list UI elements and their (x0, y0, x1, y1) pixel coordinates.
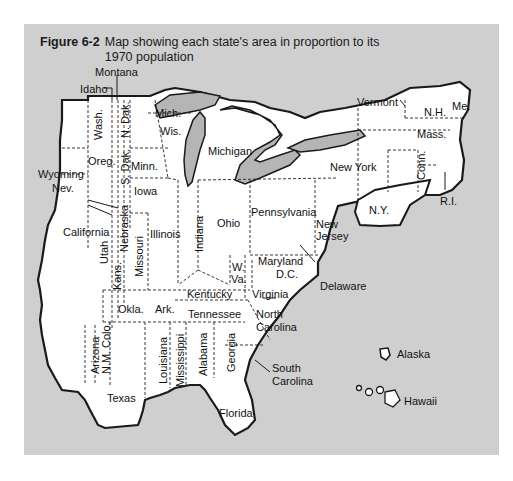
label-minnesota: Minn. (131, 160, 158, 172)
label-michigan-up: Mich. (155, 107, 181, 119)
label-new-york: New York (330, 161, 376, 173)
label-ohio: Ohio (217, 217, 240, 229)
label-south-carolina-2: Carolina (272, 375, 313, 387)
label-rhode-island: R.I. (440, 195, 457, 207)
label-north-carolina-2: Carolina (256, 321, 297, 333)
label-vermont: Vermont (357, 96, 398, 108)
alaska-shape (380, 348, 390, 360)
label-mississippi: Mississippi (174, 334, 186, 387)
label-nebraska: Nebraska (118, 205, 130, 252)
label-idaho: Idaho (80, 83, 108, 95)
label-tennessee: Tennessee (188, 308, 241, 320)
label-new-hampshire: N.H. (424, 106, 446, 118)
cartogram-map (0, 0, 513, 481)
label-montana: Montana (95, 66, 138, 78)
label-utah: Utah (98, 241, 110, 264)
label-new-jersey-1: New (316, 218, 338, 230)
label-iowa: Iowa (134, 185, 157, 197)
label-georgia: Georgia (225, 333, 237, 372)
label-ny-city: N.Y. (369, 204, 389, 216)
label-north-carolina-1: North (256, 308, 283, 320)
label-pennsylvania: Pennsylvania (251, 206, 316, 218)
label-indiana: Indiana (193, 216, 205, 252)
label-oregon: Oreg. (88, 155, 116, 167)
label-west-virginia-2: Va. (231, 273, 247, 285)
label-california: California (63, 226, 109, 238)
label-nevada: Nev. (52, 182, 74, 194)
label-colorado: Colo. (100, 322, 112, 348)
label-florida: Florida (219, 407, 253, 419)
label-texas: Texas (107, 392, 136, 404)
label-massachusetts: Mass. (417, 128, 446, 140)
label-kansas: Kans. (111, 262, 123, 290)
label-oklahoma: Okla. (118, 303, 144, 315)
label-arkansas: Ark. (155, 303, 175, 315)
label-wyoming: Wyoming (38, 168, 84, 180)
label-maryland: Maryland (258, 255, 303, 267)
label-new-mexico: N.M. (100, 351, 112, 374)
label-missouri: Missouri (133, 236, 145, 277)
label-maine: Me. (452, 100, 470, 112)
label-illinois: Illinois (150, 228, 181, 240)
label-connecticut: Conn. (415, 151, 427, 180)
label-north-dakota: N. Dak. (119, 101, 131, 138)
label-alaska: Alaska (397, 348, 430, 360)
label-washington: Wash. (92, 109, 104, 140)
label-south-carolina-1: South (272, 362, 301, 374)
hawaii-islands (357, 386, 401, 408)
label-hawaii: Hawaii (404, 395, 437, 407)
label-kentucky: Kentucky (187, 288, 232, 300)
label-louisiana: Louisiana (157, 337, 169, 384)
label-south-dakota: S. Dak. (119, 149, 131, 185)
label-new-jersey-2: Jersey (316, 230, 348, 242)
label-alabama: Alabama (197, 333, 209, 376)
label-west-virginia-1: W. (232, 261, 245, 273)
label-delaware: Delaware (320, 280, 366, 292)
label-virginia: Virginia (252, 288, 289, 300)
label-wisconsin: Wis. (160, 125, 181, 137)
label-michigan: Michigan (208, 145, 252, 157)
label-dc: D.C. (276, 268, 298, 280)
